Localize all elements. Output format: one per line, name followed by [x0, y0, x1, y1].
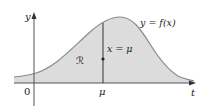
mu-tick-label: μ [99, 86, 106, 97]
y-axis-arrow-icon [32, 12, 37, 19]
origin-label: 0 [24, 86, 30, 97]
vertical-line-label: x = μ [107, 43, 133, 54]
y-axis-label: y [24, 11, 31, 22]
region-label: ℛ [76, 55, 84, 66]
curve-label: y = f(x) [139, 17, 176, 28]
t-axis-label: t [191, 87, 196, 98]
mu-dot [101, 57, 104, 60]
diagram: y 0 μ t y = f(x) x = μ ℛ [0, 0, 210, 108]
